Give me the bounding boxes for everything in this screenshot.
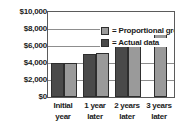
x-axis-label-1-year-later-line2: later: [79, 111, 111, 122]
bar-actual-2-years-later: [115, 42, 128, 97]
bar-model-2-years-later: [128, 41, 141, 97]
x-axis-label-3-years-later: 3 years later: [143, 100, 175, 122]
x-axis-label-2-years-later: 2 years later: [111, 100, 143, 122]
x-axis-label-1-year-later-line1: 1 year: [79, 100, 111, 111]
bar-series-container: [48, 12, 174, 97]
bar-group-initial-year: [48, 12, 80, 97]
x-axis-label-3-years-later-line1: 3 years: [143, 100, 175, 111]
bar-model-1-year-later: [96, 53, 109, 97]
x-axis-label-2-years-later-line1: 2 years: [111, 100, 143, 111]
x-axis-label-2-years-later-line2: later: [111, 111, 143, 122]
legend: = Proportional growth model = Actual dat…: [100, 26, 175, 47]
bar-actual-initial-year: [51, 63, 64, 97]
y-axis-tick-2000: $2,000: [1, 76, 47, 84]
x-axis-label-1-year-later: 1 year later: [79, 100, 111, 122]
bar-chart: $10,000 $8,000 $6,000 $4,000 $2,000 $0: [0, 0, 179, 132]
bar-actual-1-year-later: [83, 54, 96, 97]
legend-item-proportional-growth-model: = Proportional growth model: [100, 26, 175, 35]
x-axis-label-initial-year-line1: Initial: [47, 100, 79, 111]
x-axis-label-initial-year: Initial year: [47, 100, 79, 122]
y-axis-tick-10000: $10,000: [1, 8, 47, 16]
y-axis-tick-4000: $4,000: [1, 59, 47, 67]
bar-model-initial-year: [64, 63, 77, 97]
bar-group-1-year-later: [80, 12, 112, 97]
x-axis-label-initial-year-line2: year: [47, 111, 79, 122]
legend-swatch-actual-icon: [101, 39, 109, 47]
legend-label-model: = Proportional growth model: [112, 26, 175, 35]
x-axis-label-3-years-later-line2: later: [143, 111, 175, 122]
bar-group-3-years-later: [144, 12, 175, 97]
plot-area: = Proportional growth model = Actual dat…: [47, 11, 175, 98]
bar-group-2-years-later: [112, 12, 144, 97]
legend-label-actual: = Actual data: [112, 38, 159, 47]
y-axis-tick-8000: $8,000: [1, 25, 47, 33]
legend-item-actual-data: = Actual data: [100, 38, 175, 47]
y-axis-tick-6000: $6,000: [1, 42, 47, 50]
legend-swatch-model-icon: [101, 27, 109, 35]
y-axis-tick-0: $0: [1, 93, 47, 101]
x-axis-tick-labels: Initial year 1 year later 2 years later …: [47, 100, 175, 130]
